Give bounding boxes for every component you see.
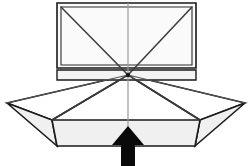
folding-panel-diagram: Folding panel structure diagram Line-art… [0, 0, 251, 166]
convergence-hub [126, 73, 130, 77]
upper-panel-group [57, 3, 196, 68]
figure-canvas: Folding panel structure diagram Line-art… [0, 0, 251, 166]
upper-rectangular-panel [57, 3, 196, 68]
